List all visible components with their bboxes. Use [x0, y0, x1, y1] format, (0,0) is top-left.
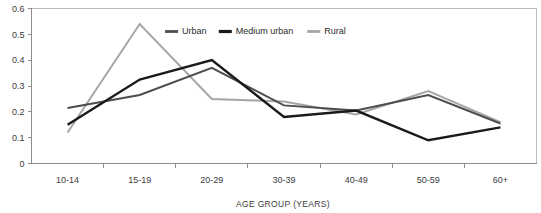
x-tick-label: 10-14 — [56, 175, 79, 185]
legend-label-rural: Rural — [324, 26, 346, 36]
x-tick-label: 50-59 — [417, 175, 440, 185]
legend-label-medium-urban: Medium urban — [236, 26, 294, 36]
x-tick-label: 30-39 — [272, 175, 295, 185]
series-line-urban — [68, 68, 501, 124]
chart-canvas: 00.10.20.30.40.50.6 10-1415-1920-2930-39… — [0, 0, 541, 213]
y-tick-label: 0.6 — [12, 4, 25, 14]
x-tick-label: 20-29 — [200, 175, 223, 185]
x-axis-title: AGE GROUP (YEARS) — [236, 199, 330, 209]
x-tick-label: 60+ — [493, 175, 508, 185]
y-axis-tick-labels: 00.10.20.30.40.50.6 — [12, 4, 25, 169]
chart-legend: UrbanMedium urbanRural — [165, 26, 346, 36]
x-tick-label: 40-49 — [345, 175, 368, 185]
data-series-lines — [68, 24, 501, 140]
y-tick-label: 0 — [19, 159, 24, 169]
y-tick-label: 0.5 — [12, 30, 25, 40]
line-chart: 00.10.20.30.40.50.6 10-1415-1920-2930-39… — [0, 0, 541, 213]
y-tick-label: 0.3 — [12, 81, 25, 91]
y-axis-ticks — [28, 9, 32, 164]
y-tick-label: 0.2 — [12, 107, 25, 117]
x-axis-ticks — [104, 164, 465, 168]
x-tick-label: 15-19 — [128, 175, 151, 185]
series-line-medium-urban — [68, 60, 501, 140]
y-tick-label: 0.4 — [12, 55, 25, 65]
y-tick-label: 0.1 — [12, 133, 25, 143]
legend-label-urban: Urban — [182, 26, 207, 36]
x-axis-tick-labels: 10-1415-1920-2930-3940-4950-5960+ — [56, 175, 508, 185]
